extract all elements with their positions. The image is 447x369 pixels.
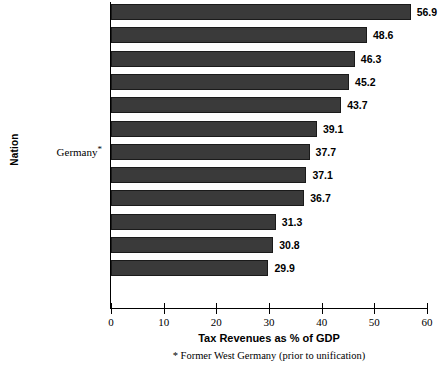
bar	[111, 144, 310, 160]
x-axis-tick	[269, 303, 270, 314]
category-label	[0, 51, 102, 67]
bar-row: 43.7	[111, 97, 427, 113]
x-axis-tick	[427, 303, 428, 314]
x-axis-tick	[216, 303, 217, 314]
category-label: Germany*	[0, 144, 102, 160]
bar-value-label: 48.6	[373, 27, 393, 43]
bar-value-label: 36.7	[310, 190, 330, 206]
bar	[111, 121, 317, 137]
x-axis-tick-label: 40	[307, 316, 337, 328]
y-axis-line	[110, 2, 111, 309]
x-axis-tick	[322, 303, 323, 314]
bar-value-label: 30.8	[279, 237, 299, 253]
bar-value-label: 45.2	[355, 74, 375, 90]
bar-value-label: 56.9	[417, 4, 437, 20]
category-label	[0, 74, 102, 90]
bar-row: 37.1	[111, 167, 427, 183]
bar-row: 37.7	[111, 144, 427, 160]
category-label	[0, 97, 102, 113]
x-axis-tick-label: 0	[96, 316, 126, 328]
x-axis-tick-label: 30	[254, 316, 284, 328]
bar-value-label: 31.3	[282, 214, 302, 230]
x-axis-tick-label: 10	[149, 316, 179, 328]
category-axis-labels: Germany*	[0, 4, 106, 288]
category-label	[0, 4, 102, 20]
bar-value-label: 43.7	[347, 97, 367, 113]
bar-row: 30.8	[111, 237, 427, 253]
x-axis-tick	[374, 303, 375, 314]
bar	[111, 4, 411, 20]
bar-value-label: 39.1	[323, 121, 343, 137]
bar	[111, 260, 268, 276]
x-axis-tick	[111, 303, 112, 314]
chart-footnote: * Former West Germany (prior to unificat…	[111, 350, 427, 361]
bar	[111, 237, 273, 253]
category-label	[0, 121, 102, 137]
bar-chart: Nation Germany* 56.948.646.345.243.739.1…	[0, 0, 447, 369]
category-label	[0, 167, 102, 183]
x-axis-tick-label: 50	[359, 316, 389, 328]
bar	[111, 51, 355, 67]
bar-value-label: 46.3	[361, 51, 381, 67]
bar-value-label: 37.7	[316, 144, 336, 160]
bar	[111, 27, 367, 43]
bar	[111, 97, 341, 113]
bar-row: 46.3	[111, 51, 427, 67]
bar-row: 36.7	[111, 190, 427, 206]
category-label	[0, 190, 102, 206]
x-axis-tick	[164, 303, 165, 314]
bar-row: 48.6	[111, 27, 427, 43]
category-label	[0, 237, 102, 253]
footnote-marker: *	[98, 144, 103, 154]
plot-area: 56.948.646.345.243.739.137.737.136.731.3…	[111, 4, 427, 288]
x-axis-title: Tax Revenues as % of GDP	[111, 332, 427, 344]
bar	[111, 214, 276, 230]
bar	[111, 167, 306, 183]
bar-value-label: 37.1	[312, 167, 332, 183]
x-axis-tick-label: 20	[201, 316, 231, 328]
x-axis-tick-label: 60	[412, 316, 442, 328]
bar	[111, 74, 349, 90]
bar-value-label: 29.9	[274, 260, 294, 276]
bar-row: 39.1	[111, 121, 427, 137]
category-label	[0, 260, 102, 276]
bar-row: 31.3	[111, 214, 427, 230]
category-label	[0, 214, 102, 230]
bar-row: 45.2	[111, 74, 427, 90]
bar-row: 56.9	[111, 4, 427, 20]
bar-row: 29.9	[111, 260, 427, 276]
category-label	[0, 27, 102, 43]
bar	[111, 190, 304, 206]
